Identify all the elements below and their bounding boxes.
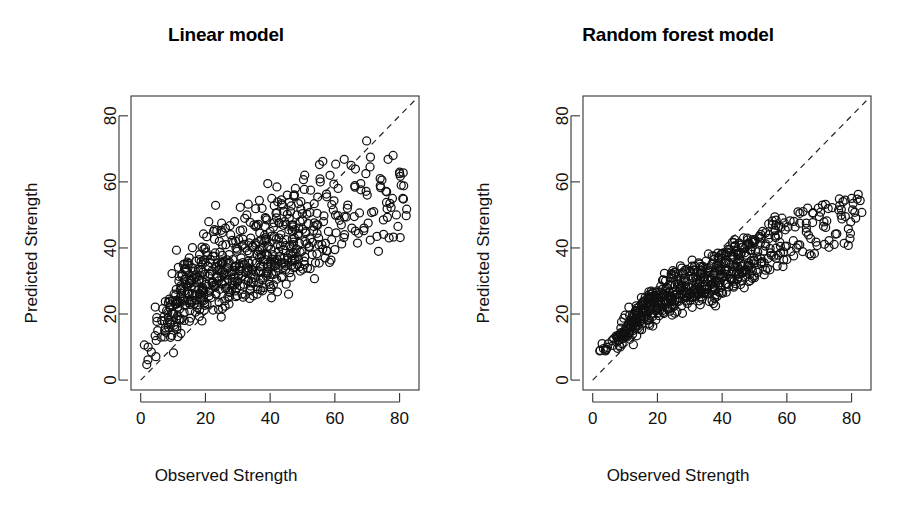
data-point <box>310 275 318 283</box>
data-point <box>144 356 152 364</box>
data-points-group <box>140 137 410 369</box>
scatter-plot-rf: 020406080020406080 <box>452 0 904 522</box>
data-point <box>172 246 180 254</box>
data-point <box>366 153 374 161</box>
data-point <box>366 236 374 244</box>
data-point <box>394 222 402 230</box>
data-point <box>625 303 633 311</box>
data-point <box>210 235 218 243</box>
data-point <box>329 206 337 214</box>
data-point <box>282 280 290 288</box>
data-point <box>363 137 371 145</box>
data-point <box>236 203 244 211</box>
x-axis-tick-label: 0 <box>136 409 145 428</box>
y-axis-tick-label: 0 <box>102 375 121 384</box>
data-point <box>364 219 372 227</box>
x-axis-tick-label: 60 <box>777 409 796 428</box>
x-axis-tick-label: 40 <box>261 409 280 428</box>
data-point <box>212 201 220 209</box>
data-point <box>152 353 160 361</box>
data-point <box>340 155 348 163</box>
data-point <box>169 349 177 357</box>
data-point <box>331 246 339 254</box>
x-axis-tick-label: 80 <box>390 409 409 428</box>
figure-root: Linear model Predicted Strength Observed… <box>0 0 904 522</box>
y-axis-tick-label: 0 <box>554 375 573 384</box>
data-point <box>299 176 307 184</box>
x-axis-tick-label: 40 <box>713 409 732 428</box>
y-axis-tick-label: 60 <box>102 172 121 191</box>
y-axis-tick-label: 80 <box>554 106 573 125</box>
data-point <box>366 163 374 171</box>
y-axis-tick-label: 40 <box>554 238 573 257</box>
data-point <box>247 234 255 242</box>
data-point <box>264 180 272 188</box>
data-point <box>324 227 332 235</box>
data-point <box>374 247 382 255</box>
data-point <box>209 306 217 314</box>
y-axis-tick-label: 20 <box>102 305 121 324</box>
data-point <box>392 211 400 219</box>
data-point <box>332 160 340 168</box>
data-point <box>337 221 345 229</box>
x-axis-tick-label: 20 <box>196 409 215 428</box>
scatter-plot-linear: 020406080020406080 <box>0 0 452 522</box>
data-point <box>244 200 252 208</box>
data-point <box>794 208 802 216</box>
data-point <box>217 313 225 321</box>
data-point <box>354 239 362 247</box>
x-axis-tick-label: 80 <box>842 409 861 428</box>
panel-random-forest-model: Random forest model Predicted Strength O… <box>452 0 904 522</box>
data-point <box>846 229 854 237</box>
data-point <box>320 212 328 220</box>
y-axis-tick-label: 80 <box>102 106 121 125</box>
x-axis-tick-label: 20 <box>648 409 667 428</box>
y-axis-tick-label: 40 <box>102 238 121 257</box>
panel-linear-model: Linear model Predicted Strength Observed… <box>0 0 452 522</box>
data-point <box>188 244 196 252</box>
x-axis-tick-label: 0 <box>588 409 597 428</box>
data-point <box>285 290 293 298</box>
x-axis-tick-label: 60 <box>325 409 344 428</box>
data-point <box>273 183 281 191</box>
y-axis-tick-label: 20 <box>554 305 573 324</box>
data-points-group <box>596 190 866 355</box>
data-point <box>151 303 159 311</box>
data-point <box>332 229 340 237</box>
data-point <box>255 196 263 204</box>
data-point <box>326 171 334 179</box>
y-axis-tick-label: 60 <box>554 172 573 191</box>
data-point <box>205 218 213 226</box>
